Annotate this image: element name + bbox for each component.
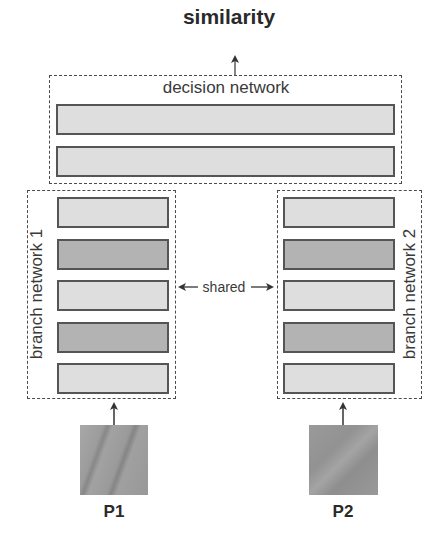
arrows-layer — [0, 0, 447, 547]
